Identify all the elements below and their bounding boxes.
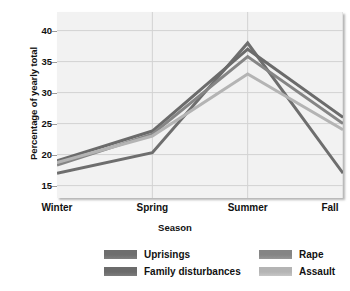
x-tick-label-summer: Summer (228, 202, 268, 213)
legend-item-uprisings: Uprisings (104, 248, 190, 261)
legend-swatch-icon (259, 250, 292, 259)
y-tick-label-20: 20 (28, 150, 52, 160)
y-axis-tick-labels: 152025303540 (24, 0, 52, 291)
plot-area (57, 12, 343, 198)
legend-label: Rape (299, 249, 323, 260)
legend-label: Family disturbances (144, 266, 241, 277)
x-tick-label-spring: Spring (136, 202, 168, 213)
legend-swatch-icon (259, 267, 292, 276)
legend-item-rape: Rape (259, 248, 323, 261)
y-tick-label-30: 30 (28, 88, 52, 98)
series-line-uprisings (57, 43, 343, 173)
legend-label: Uprisings (144, 249, 190, 260)
plot-svg (57, 12, 343, 198)
legend-item-assault: Assault (259, 265, 335, 278)
y-tick-label-40: 40 (28, 26, 52, 36)
x-tick-label-fall: Fall (321, 202, 338, 213)
y-tick-label-35: 35 (28, 57, 52, 67)
legend-swatch-icon (104, 250, 137, 259)
legend-label: Assault (299, 266, 335, 277)
x-axis-title: Season (0, 222, 350, 233)
y-tick-label-15: 15 (28, 181, 52, 191)
legend-item-family-disturbances: Family disturbances (104, 265, 241, 278)
chart-legend: UprisingsRapeFamily disturbancesAssault (104, 248, 344, 282)
line-chart-figure: Percentage of yearly total 152025303540 … (0, 0, 350, 291)
legend-swatch-icon (104, 267, 137, 276)
y-tick-label-25: 25 (28, 119, 52, 129)
x-tick-label-winter: Winter (41, 202, 72, 213)
series-lines (57, 43, 343, 173)
